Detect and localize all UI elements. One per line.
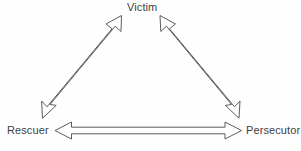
arrow-victim-persecutor — [160, 16, 240, 119]
drama-triangle-diagram: Victim Rescuer Persecutor — [0, 0, 301, 151]
arrow-rescuer-persecutor — [55, 122, 242, 139]
node-label-rescuer: Rescuer — [7, 124, 49, 137]
node-label-persecutor: Persecutor — [246, 124, 300, 137]
node-label-victim: Victim — [127, 1, 157, 14]
arrow-rescuer-victim — [42, 16, 122, 119]
